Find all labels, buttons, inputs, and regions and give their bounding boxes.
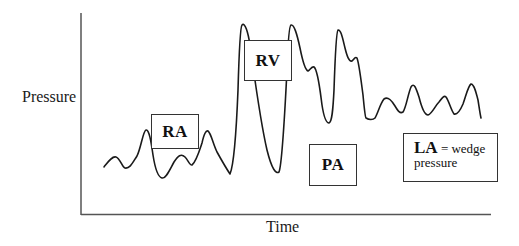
y-axis-label: Pressure xyxy=(22,89,76,105)
la-equals-text: = wedge xyxy=(438,141,486,156)
la-label-line1: LA = wedge xyxy=(414,141,497,156)
pressure-tracing-diagram: Pressure Time RA RV PA LA = wedge pressu… xyxy=(0,0,519,246)
la-label-line2: pressure xyxy=(414,156,497,169)
diagram-svg xyxy=(0,0,519,246)
la-label-box: LA = wedge pressure xyxy=(403,133,498,182)
ra-label: RA xyxy=(162,122,188,142)
rv-label: RV xyxy=(256,51,281,71)
pa-label-box: PA xyxy=(309,144,357,186)
rv-label-box: RV xyxy=(244,40,292,81)
pa-label: PA xyxy=(322,155,344,175)
x-axis-label: Time xyxy=(266,219,299,235)
ra-label-box: RA xyxy=(151,114,199,149)
